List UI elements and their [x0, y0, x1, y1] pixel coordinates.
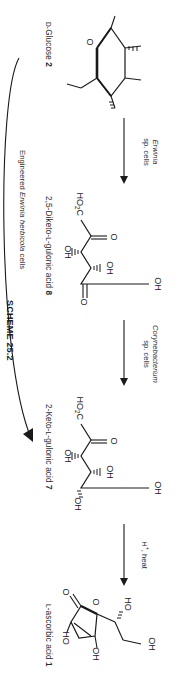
- svg-text:OH: OH: [91, 647, 101, 661]
- arrow-corynebacterium: [117, 320, 131, 386]
- ascorbic-base: -ascorbic acid: [44, 608, 53, 662]
- arrow-corynebacterium-line1: Corynebacterium: [151, 325, 160, 383]
- svg-text:OH: OH: [153, 277, 163, 291]
- compound-ketogulonic-label: 2-Keto-L-gulonic acid 7: [44, 404, 53, 490]
- arrow-erwinia-label: Erwinia sp. cells: [142, 112, 159, 192]
- arrow-acid-heat-svg: [117, 524, 131, 586]
- svg-text:O: O: [61, 588, 71, 595]
- svg-text:OH: OH: [105, 261, 115, 275]
- glucose-number: 2: [44, 62, 53, 67]
- scheme-title: SCHEME 25.2: [5, 300, 15, 361]
- arrow-acid-heat: [117, 524, 131, 586]
- arrow-corynebacterium-line2: sp. cells: [142, 340, 151, 367]
- reaction-scheme-canvas: O D-Glucose 2 Erwinia sp. cells: [0, 0, 181, 697]
- svg-text:O: O: [85, 38, 95, 45]
- arrow-erwinia-svg: [117, 118, 131, 184]
- compound-diketo-structure: HO2C O OH OH O OH: [63, 196, 167, 302]
- ascorbic-number: 1: [44, 662, 53, 667]
- diketo-skeleton-svg: HO2C O OH OH O OH: [63, 196, 167, 302]
- arrow-acid-heat-label: H+, heat: [140, 522, 151, 588]
- compound-ketogulonic-structure: HO2C O OH OH OH OH: [63, 400, 167, 506]
- scheme-caption-prefix: Engineered: [18, 150, 27, 192]
- svg-text:OH: OH: [147, 637, 157, 651]
- compound-ascorbic-label: L-ascorbic acid 1: [44, 604, 53, 667]
- svg-text:HO: HO: [123, 597, 133, 611]
- ascorbic-skeleton-svg: O O HO OH OH HO: [63, 592, 171, 692]
- ketogulonic-skeleton-svg: HO2C O OH OH OH OH: [63, 400, 167, 506]
- compound-glucose-structure: O: [63, 6, 159, 110]
- scheme-caption-suffix: cells: [18, 251, 27, 269]
- scheme-caption-organism: Erwinia herbicola: [18, 192, 27, 251]
- arrow-corynebacterium-label: Corynebacterium sp. cells: [142, 306, 159, 402]
- svg-text:HO: HO: [61, 631, 71, 645]
- svg-text:O: O: [79, 298, 89, 305]
- diketo-prefix: 2,5-Diketo-: [44, 196, 53, 237]
- compound-diketo-label: 2,5-Diketo-L-gulonic acid 8: [44, 196, 53, 295]
- svg-text:O: O: [109, 437, 119, 444]
- diketo-base: -gulonic acid: [44, 241, 53, 291]
- ketogulonic-number: 7: [44, 485, 53, 490]
- arrow-corynebacterium-svg: [117, 320, 131, 386]
- ketogulonic-prefix: 2-Keto-: [44, 404, 53, 432]
- svg-text:O: O: [109, 233, 119, 240]
- ketogulonic-base: -gulonic acid: [44, 435, 53, 485]
- svg-text:HO2C: HO2C: [74, 396, 85, 420]
- svg-text:OH: OH: [73, 497, 83, 511]
- glucose-base: Glucose: [44, 29, 53, 62]
- arrow-erwinia-line2: sp. cells: [142, 138, 151, 165]
- diketo-number: 8: [44, 291, 53, 296]
- svg-text:OH: OH: [153, 481, 163, 495]
- compound-glucose-label: D-Glucose 2: [44, 22, 53, 67]
- compound-ascorbic-structure: O O HO OH OH HO: [63, 592, 171, 692]
- scheme-caption: Engineered Erwinia herbicola cells: [18, 150, 27, 269]
- arrow-erwinia-line1: Erwinia: [151, 140, 160, 165]
- svg-text:O: O: [91, 598, 101, 605]
- arrow-erwinia: [117, 118, 131, 184]
- svg-text:OH: OH: [105, 465, 115, 479]
- glucose-skeleton-svg: O: [63, 6, 159, 110]
- arrow-acid-heat-line1: H+, heat: [140, 541, 149, 569]
- svg-text:HO2C: HO2C: [74, 192, 85, 216]
